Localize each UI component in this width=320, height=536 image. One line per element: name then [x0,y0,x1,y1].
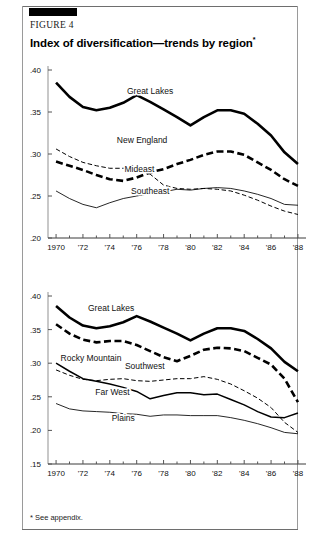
series-label-far-west: Far West [95,387,130,397]
bottom-rule [22,529,298,530]
series-label-rocky-mountain: Rocky Mountain [61,353,122,363]
figure-title-footnote-marker: * [253,36,256,43]
x-axis-tick-label: '86 [266,243,277,252]
series-line-plains [56,404,298,434]
series-label-great-lakes: Great Lakes [88,303,134,313]
x-axis-tick-label: '84 [239,469,250,478]
y-axis-tick-label: .35 [30,326,42,335]
series-line-new-england [56,151,298,185]
figure-number: FIGURE 4 [30,20,74,30]
series-line-mideast [56,149,298,215]
series-line-southwest [56,370,298,433]
y-axis-tick-label: .20 [30,426,42,435]
series-line-southeast [56,188,298,208]
y-axis-tick-label: .35 [30,108,42,117]
x-axis-tick-label: '74 [105,243,116,252]
top-rule [22,6,298,7]
series-label-new-england: New England [117,135,168,145]
y-axis-tick-label: .30 [30,150,42,159]
x-axis-tick-label: '82 [212,469,223,478]
x-axis-tick-label: '86 [266,469,277,478]
x-axis-tick-label: 1970 [47,243,65,252]
x-axis-tick-label: '80 [185,243,196,252]
chart-panel-bottom: .15.20.25.30.35.401970'72'74'76'78'80'82… [0,286,320,501]
x-axis-tick-label: '76 [131,469,142,478]
x-axis-tick-label: '76 [131,243,142,252]
series-label-great-lakes: Great Lakes [127,86,173,96]
x-axis-tick-label: '72 [78,469,89,478]
x-axis-tick-label: '82 [212,243,223,252]
y-axis-tick-label: .40 [30,66,42,75]
y-axis-tick-label: .30 [30,359,42,368]
series-label-mideast: Mideast [124,164,154,174]
series-label-southeast: Southeast [131,186,170,196]
x-axis-tick-label: 1970 [47,469,65,478]
y-axis-tick-label: .25 [30,393,42,402]
x-axis-tick-label: '78 [158,243,169,252]
y-axis-tick-label: .25 [30,192,42,201]
series-label-southwest: Southwest [125,361,165,371]
x-axis-tick-label: '80 [185,469,196,478]
series-line-great-lakes [56,83,298,164]
series-line-rocky-mountain [56,324,298,402]
x-axis-tick-label: '84 [239,243,250,252]
y-axis-tick-label: .15 [30,460,42,469]
x-axis-tick-label: '88 [293,469,304,478]
figure-title-text: Index of diversification—trends by regio… [30,37,253,49]
x-axis-tick-label: '72 [78,243,89,252]
x-axis-tick-label: '88 [293,243,304,252]
y-axis-tick-label: .40 [30,292,42,301]
series-label-plains: Plains [112,413,135,423]
x-axis-tick-label: '78 [158,469,169,478]
y-axis-tick-label: .20 [30,234,42,243]
chart-panel-top: .20.25.30.35.401970'72'74'76'78'80'82'84… [0,60,320,275]
figure-footnote: * See appendix. [30,513,83,522]
figure-marker-bar [29,8,77,16]
x-axis-tick-label: '74 [105,469,116,478]
page-title: Index of diversification—trends by regio… [30,36,255,49]
series-line-far-west [56,363,298,417]
figure-container: FIGURE 4 Index of diversification—trends… [0,0,320,536]
